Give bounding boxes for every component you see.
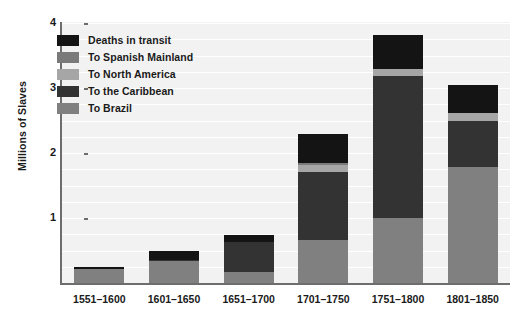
gridline (62, 186, 510, 187)
legend-swatch-icon (57, 86, 79, 97)
bar-segment-to-brazil (224, 272, 274, 283)
x-tick-label: 1751–1800 (358, 293, 438, 305)
legend-label: To North America (88, 68, 176, 80)
y-tick-mark (84, 218, 88, 220)
y-tick-label: 1 (30, 212, 56, 223)
x-axis-line (60, 283, 510, 285)
legend-swatch-icon (57, 69, 79, 80)
bar-1751–1800 (373, 35, 423, 283)
x-tick-label: 1801–1850 (433, 293, 513, 305)
y-tick-label: 4 (30, 17, 56, 28)
y-tick-mark (84, 153, 88, 155)
bar-segment-to-the-caribbean (448, 121, 498, 168)
bar-segment-to-brazil (448, 167, 498, 283)
bar-segment-to-north-america (298, 165, 348, 172)
legend-item-1: To Spanish Mainland (57, 50, 193, 64)
bar-1801–1850 (448, 85, 498, 283)
legend-label: To the Caribbean (88, 85, 174, 97)
x-tick-label: 1601–1650 (134, 293, 214, 305)
bar-segment-to-the-caribbean (224, 242, 274, 272)
legend-label: Deaths in transit (88, 34, 171, 46)
legend-swatch-icon (57, 35, 79, 46)
gridline (62, 234, 510, 235)
bar-1651–1700 (224, 235, 274, 283)
bar-1551–1600 (74, 267, 124, 283)
bar-1701–1750 (298, 134, 348, 283)
bar-segment-to-the-caribbean (298, 172, 348, 240)
legend-item-0: Deaths in transit (57, 33, 193, 47)
y-axis-title: Millions of Slaves (16, 71, 28, 181)
y-axis-ticks: 4321 (28, 0, 56, 322)
bar-segment-deaths-in-transit (224, 235, 274, 242)
bar-segment-to-brazil (298, 240, 348, 283)
x-tick-label: 1651–1700 (209, 293, 289, 305)
bar-segment-to-north-america (373, 69, 423, 77)
x-tick-label: 1701–1750 (283, 293, 363, 305)
bar-segment-deaths-in-transit (448, 85, 498, 114)
gridline (62, 121, 510, 122)
stacked-bar-chart: Millions of Slaves 4321 1551–16001601–16… (0, 0, 514, 322)
y-tick-mark (84, 23, 88, 25)
gridline (62, 137, 510, 138)
bar-segment-deaths-in-transit (149, 251, 199, 261)
legend-label: To Brazil (88, 102, 132, 114)
gridline (62, 153, 510, 154)
legend-item-3: To the Caribbean (57, 84, 193, 98)
y-tick-label: 2 (30, 147, 56, 158)
bar-segment-deaths-in-transit (373, 35, 423, 68)
bar-1601–1650 (149, 251, 199, 283)
legend-item-2: To North America (57, 67, 193, 81)
gridline (62, 218, 510, 219)
x-tick-label: 1551–1600 (59, 293, 139, 305)
bar-segment-to-brazil (74, 269, 124, 283)
chart-legend: Deaths in transitTo Spanish MainlandTo N… (57, 33, 193, 115)
gridline (62, 251, 510, 252)
bar-segment-to-the-caribbean (373, 76, 423, 218)
y-tick-label: 3 (30, 82, 56, 93)
legend-label: To Spanish Mainland (88, 51, 193, 63)
bar-segment-to-north-america (448, 113, 498, 120)
gridline (62, 267, 510, 268)
bar-segment-to-brazil (373, 218, 423, 283)
legend-swatch-icon (57, 52, 79, 63)
bar-segment-to-brazil (149, 261, 199, 283)
gridline (62, 202, 510, 203)
legend-swatch-icon (57, 103, 79, 114)
legend-item-4: To Brazil (57, 101, 193, 115)
gridline (62, 169, 510, 170)
bar-segment-deaths-in-transit (298, 134, 348, 163)
gridline (62, 23, 510, 24)
